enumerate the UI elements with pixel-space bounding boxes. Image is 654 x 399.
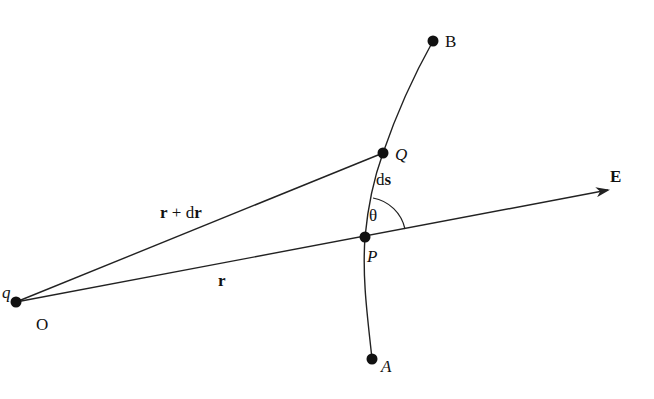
label-q: Q xyxy=(395,145,407,164)
point-b xyxy=(428,36,439,47)
label-theta: θ xyxy=(369,206,377,225)
label-b: B xyxy=(445,32,456,51)
point-a xyxy=(367,354,378,365)
ds-s: s xyxy=(385,170,392,189)
vector-r-plus-dr xyxy=(16,153,383,302)
label-e-field: E xyxy=(610,167,621,186)
label-a: A xyxy=(380,357,392,376)
path-a-to-b xyxy=(364,41,433,359)
diagram-canvas: q O P Q B A r r + dr ds θ E xyxy=(0,0,654,399)
label-o: O xyxy=(36,315,48,334)
point-p xyxy=(360,232,371,243)
r-plus-dr-dr: r xyxy=(194,203,202,222)
r-plus-dr-plus-d: + d xyxy=(168,203,195,222)
point-o xyxy=(11,297,22,308)
angle-theta-arc xyxy=(373,198,405,229)
label-p: P xyxy=(366,247,377,266)
label-vector-r: r xyxy=(218,271,226,290)
point-q xyxy=(378,148,389,159)
label-ds: ds xyxy=(376,170,392,189)
charge-label-q: q xyxy=(2,283,11,302)
label-vector-r-plus-dr: r + dr xyxy=(160,203,202,222)
vector-r-and-field-line xyxy=(16,190,608,302)
